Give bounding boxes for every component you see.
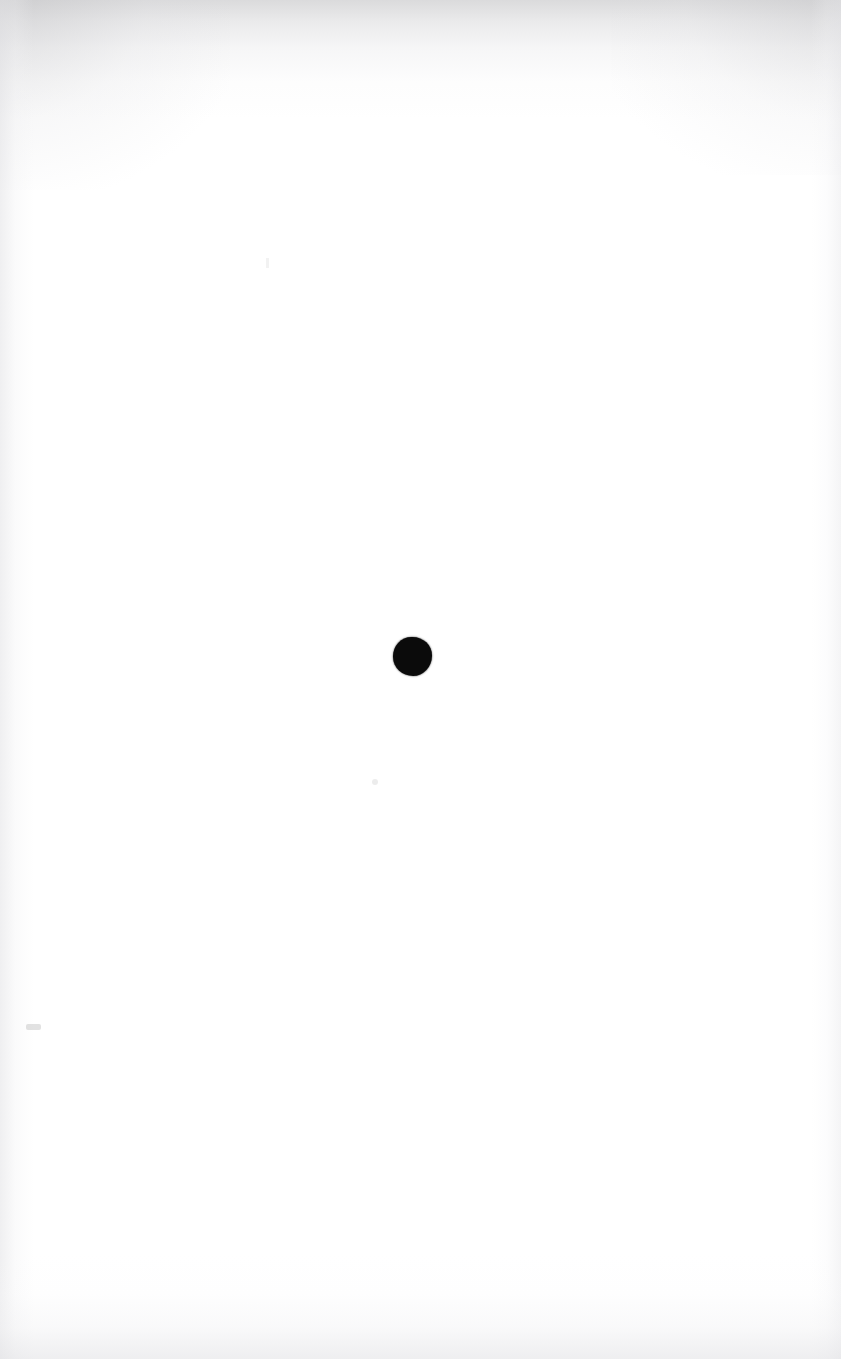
- scanned-page: [0, 0, 841, 1359]
- ink-dot: [393, 637, 432, 676]
- scan-shadow-right-edge: [811, 0, 841, 1359]
- page-content-area: [34, 60, 811, 1309]
- scan-shadow-left-edge: [0, 0, 34, 1359]
